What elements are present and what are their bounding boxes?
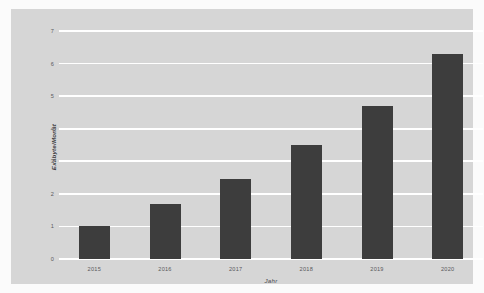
gridline: [59, 226, 483, 228]
x-axis-tick-label: 2016: [158, 266, 171, 272]
gridline: [59, 95, 483, 97]
y-axis-tick-label: 6: [51, 61, 54, 67]
plot-area: 01234567 201520162017201820192020 Jahr: [59, 31, 483, 259]
bar: [291, 145, 322, 259]
y-axis-tick-label: 1: [51, 223, 54, 229]
bar: [150, 204, 181, 259]
x-axis-tick-label: 2019: [370, 266, 383, 272]
y-axis-tick-label: 5: [51, 93, 54, 99]
x-axis-tick-label: 2015: [88, 266, 101, 272]
x-axis-tick-label: 2017: [229, 266, 242, 272]
y-axis-tick-label: 7: [51, 28, 54, 34]
gridline: [59, 160, 483, 162]
gridline: [59, 258, 483, 260]
y-axis-tick-label: 2: [51, 191, 54, 197]
x-axis-tick-label: 2018: [300, 266, 313, 272]
x-axis-tick-label: 2020: [441, 266, 454, 272]
y-axis-tick-label: 4: [51, 126, 54, 132]
bar: [362, 106, 393, 259]
y-axis-tick-label: 0: [51, 256, 54, 262]
gridline: [59, 193, 483, 195]
gridline: [59, 30, 483, 32]
x-axis-title: Jahr: [265, 277, 278, 284]
chart-panel: Exabyte/Monat 01234567 20152016201720182…: [11, 9, 473, 284]
bar: [220, 179, 251, 259]
bar: [432, 54, 463, 259]
gridline: [59, 128, 483, 130]
bar: [79, 226, 110, 259]
gridline: [59, 63, 483, 65]
chart-figure: Exabyte/Monat 01234567 20152016201720182…: [0, 0, 484, 293]
y-axis-tick-label: 3: [51, 158, 54, 164]
